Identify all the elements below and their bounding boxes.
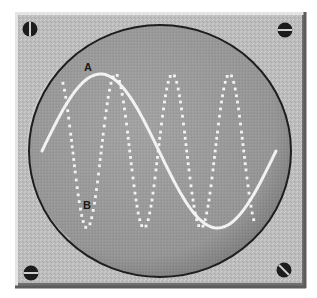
screw-bottom-right-icon xyxy=(277,263,292,278)
wave-b-label: B xyxy=(83,199,91,211)
screw-top-right-icon xyxy=(278,23,293,38)
screw-bottom-left-icon xyxy=(24,266,39,281)
oscilloscope-figure: A B xyxy=(0,0,317,298)
screw-top-left-icon xyxy=(23,22,38,37)
oscilloscope-svg: A B xyxy=(0,0,317,298)
wave-a-label: A xyxy=(84,61,92,73)
